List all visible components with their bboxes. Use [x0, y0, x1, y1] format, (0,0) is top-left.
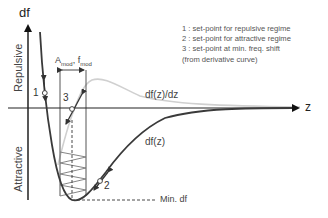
derivative-curve: [58, 79, 300, 165]
derivative-curve-label: df(z)/dz: [145, 89, 178, 100]
x-axis-label: z: [305, 100, 311, 114]
setpoint-3-marker: [70, 107, 75, 112]
legend: 1 : set-point for repulsive regime 2 : s…: [182, 24, 291, 65]
setpoint-1-label: 1: [33, 87, 39, 98]
y-axis-label: df: [19, 5, 30, 20]
frequency-subscript: mod: [80, 61, 92, 67]
legend-item-2: 2 : set-point for attractive regime: [182, 34, 291, 44]
setpoint-3-label: 3: [63, 92, 69, 103]
min-df-label: Min. df: [160, 194, 187, 204]
repulsive-label: Repulsive: [12, 44, 24, 92]
legend-item-1: 1 : set-point for repulsive regime: [182, 24, 291, 34]
df-curve-label: df(z): [145, 136, 165, 147]
amplitude-subscript: mod: [61, 61, 73, 67]
legend-item-3: 3 : set-point at min. freq. shift: [182, 44, 291, 54]
modulation-label: Amod, fmod: [55, 55, 92, 67]
setpoint-1-marker: [42, 91, 47, 96]
setpoint-2-marker: [98, 179, 103, 184]
attractive-label: Attractive: [12, 146, 24, 192]
legend-item-3-note: (from derivative curve): [182, 55, 291, 65]
setpoint-2-label: 2: [104, 180, 110, 191]
